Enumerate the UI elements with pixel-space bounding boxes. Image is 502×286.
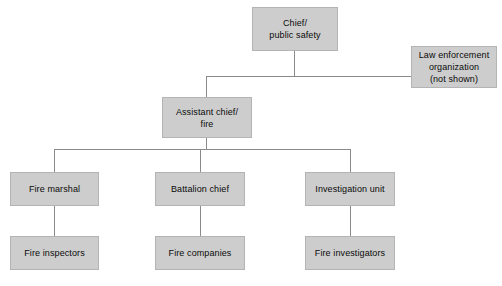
node-fire-marshal-label: Fire marshal (26, 183, 83, 195)
node-law-enforcement[interactable]: Law enforcement organization (not shown) (411, 46, 497, 88)
node-battalion-chief-label: Battalion chief (168, 183, 232, 195)
node-investigation-unit[interactable]: Investigation unit (305, 172, 395, 206)
node-assistant-chief[interactable]: Assistant chief/ fire (162, 97, 252, 138)
connector-to-fire-marshal (54, 149, 55, 172)
node-fire-companies[interactable]: Fire companies (155, 236, 245, 270)
connector-fire-marshal-to-inspectors (54, 206, 55, 236)
connector-level2-bar (206, 76, 412, 77)
connector-to-assistant-chief (206, 76, 207, 98)
connector-chief-stem (294, 51, 295, 77)
connector-battalion-chief-to-companies (200, 206, 201, 236)
node-fire-companies-label: Fire companies (166, 247, 235, 259)
node-fire-investigators[interactable]: Fire investigators (305, 236, 395, 270)
node-fire-inspectors-label: Fire inspectors (21, 247, 88, 259)
node-chief[interactable]: Chief/ public safety (252, 7, 338, 51)
connector-to-battalion-chief (200, 149, 201, 172)
node-assistant-chief-label: Assistant chief/ fire (173, 106, 241, 130)
connector-level3-bar (54, 149, 351, 150)
node-law-enforcement-label: Law enforcement organization (not shown) (416, 49, 493, 85)
org-chart-diagram: Chief/ public safety Law enforcement org… (0, 0, 502, 286)
node-chief-label: Chief/ public safety (266, 17, 323, 41)
connector-investigation-unit-to-investigators (350, 206, 351, 236)
node-battalion-chief[interactable]: Battalion chief (155, 172, 245, 206)
node-fire-investigators-label: Fire investigators (312, 247, 388, 259)
node-fire-marshal[interactable]: Fire marshal (10, 172, 99, 206)
node-fire-inspectors[interactable]: Fire inspectors (10, 236, 99, 270)
node-investigation-unit-label: Investigation unit (312, 183, 387, 195)
connector-to-investigation-unit (350, 149, 351, 172)
